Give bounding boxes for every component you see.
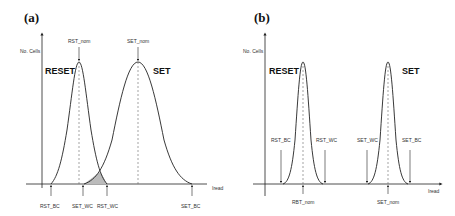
panel-b-label: (b) [254, 10, 270, 25]
panel-a-label: (a) [24, 10, 39, 25]
rst-nom-label: RST_nom [68, 38, 91, 44]
panel-a: (a) No. Cells Iread RESET SET RST_nom SE… [20, 10, 224, 209]
rst-bc-label: RST_BC [40, 203, 60, 209]
set-label: SET [402, 66, 420, 76]
y-axis-label: No. Cells [20, 48, 41, 54]
figure: (a) No. Cells Iread RESET SET RST_nom SE… [0, 0, 455, 216]
set-bc-label: SET_BC [402, 137, 422, 143]
set-nom-label: SET_nom [377, 199, 399, 205]
set-nom-label: SET_nom [127, 38, 149, 44]
rst-wc-label: RST_WC [97, 203, 119, 209]
x-axis-label: Iread [212, 185, 224, 191]
set-wc-label: SET_WC [72, 203, 93, 209]
panel-b: (b) No. Cells Iread RESET SET RST_BC RST… [243, 10, 441, 205]
reset-label: RESET [45, 66, 76, 76]
x-axis-label: Iread [428, 188, 440, 194]
rst-nom-label: RBT_nom [292, 199, 315, 205]
rst-bc-label: RST_BC [271, 137, 291, 143]
y-axis-label: No. Cells [243, 48, 264, 54]
set-label: SET [153, 66, 171, 76]
rst-wc-label: RST_WC [316, 137, 338, 143]
set-wc-label: SET_WC [357, 137, 378, 143]
reset-label: RESET [269, 66, 300, 76]
set-bc-label: SET_BC [181, 203, 201, 209]
